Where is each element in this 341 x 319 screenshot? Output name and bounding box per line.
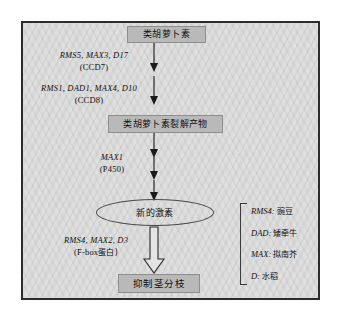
figure-frame: 类胡萝卜素 RMS5, MAX3, D17 (CCD7) RMS1, DAD1,… [21,21,320,300]
legend-bracket-left [240,203,247,285]
edge-label-p450-enzyme: (P450) [81,163,143,175]
edge-label-ccd8-genes: RMS1, DAD1, MAX4, D10 [31,82,147,94]
edge-label-fbox-prefix: (F-box [74,247,98,257]
legend-item-rms4-gene: RMS4: [251,206,275,216]
node-cleavage-product: 类胡萝卜素裂解产物 [108,115,223,133]
edge-label-ccd7-enzyme: (CCD7) [40,61,148,73]
legend-item-max: MAX: 拟南芥 [251,250,320,259]
arrow-fbox-block [142,227,166,275]
edge-label-fbox-suffix: 蛋白) [98,248,118,257]
legend-item-dad: DAD: 矮牵牛 [251,229,320,238]
edge-label-ccd7-genes: RMS5, MAX3, D17 [40,49,148,61]
arrow-p450-mid [147,157,161,181]
node-inhibit-branching: 抑制茎分枝 [118,274,200,293]
legend-item-max-species: 拟南芥 [273,250,297,259]
edge-label-p450: MAX1 (P450) [81,151,143,176]
legend-item-dad-gene: DAD: [251,228,271,238]
legend-item-max-gene: MAX: [251,249,271,259]
legend-item-dad-species: 矮牵牛 [273,229,297,238]
legend-items: RMS4: 豌豆 DAD: 矮牵牛 MAX: 拟南芥 D: 水稻 [251,207,320,281]
legend-item-d-species: 水稻 [262,272,278,281]
node-new-hormone: 新的激素 [96,199,214,226]
arrow-ccd8 [147,76,161,106]
edge-label-fbox: RMS4, MAX2, D3 (F-box蛋白) [53,234,139,259]
pathway-figure: 类胡萝卜素 RMS5, MAX3, D17 (CCD7) RMS1, DAD1,… [0,0,341,319]
legend-item-d: D: 水稻 [251,272,320,281]
arrow-ccd7 [147,43,161,73]
arrow-p450-upper [147,133,161,159]
node-carotenoid: 类胡萝卜素 [127,26,206,43]
legend-item-rms4-species: 豌豆 [277,207,293,216]
legend-item-rms4: RMS4: 豌豆 [251,207,320,216]
edge-label-fbox-genes: RMS4, MAX2, D3 [53,234,139,246]
edge-label-fbox-enzyme: (F-box蛋白) [53,246,139,259]
legend-item-d-gene: D: [251,271,260,281]
edge-label-ccd8-enzyme: (CCD8) [31,94,147,106]
edge-label-ccd8: RMS1, DAD1, MAX4, D10 (CCD8) [31,82,147,107]
edge-label-p450-genes: MAX1 [81,151,143,163]
edge-label-ccd7: RMS5, MAX3, D17 (CCD7) [40,49,148,74]
legend: RMS4: 豌豆 DAD: 矮牵牛 MAX: 拟南芥 D: 水稻 [240,203,320,285]
